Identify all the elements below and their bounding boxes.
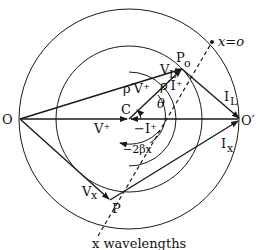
label-rho-i-plus: ρ′I⁺ xyxy=(160,78,183,93)
label-v-plus: V⁺ xyxy=(93,121,110,136)
label-minus-2-beta-x: −2βx xyxy=(123,143,153,156)
label-p: P xyxy=(112,201,121,216)
circle-diagram: O O′ C P o P x=o x wavelengths V L I L V… xyxy=(0,0,261,250)
label-ix-sub: x xyxy=(227,142,234,155)
label-theta: θ xyxy=(157,96,165,111)
label-minus-i-plus: −I⁺ xyxy=(134,121,157,136)
label-o: O xyxy=(2,112,13,127)
label-il-sub: L xyxy=(230,95,238,108)
label-vx-sub: x xyxy=(91,189,98,202)
label-o-prime: O′ xyxy=(241,113,255,128)
x-eq-o-point xyxy=(210,40,214,44)
label-rho-v-plus: ρ′V⁺ xyxy=(123,81,150,96)
label-x-wavelengths: x wavelengths xyxy=(92,236,186,250)
label-p0-sub: o xyxy=(184,57,191,70)
label-ix: I xyxy=(221,136,226,151)
vector-vl xyxy=(20,69,182,119)
label-c: C xyxy=(121,102,131,117)
label-il: I xyxy=(224,89,229,104)
label-x-eq-o: x=o xyxy=(218,34,244,49)
